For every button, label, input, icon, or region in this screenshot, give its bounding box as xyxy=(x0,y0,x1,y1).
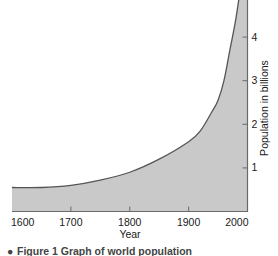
figure-caption: ● Figure 1 Graph of world population xyxy=(7,245,192,256)
x-axis-title: Year xyxy=(119,228,141,240)
y-tick-label: 2 xyxy=(252,118,258,130)
x-tick-label: 2000 xyxy=(225,216,249,228)
x-tick-label: 1700 xyxy=(59,216,83,228)
x-tick-label: 1800 xyxy=(118,216,142,228)
world-population-area-chart: 16001700180019002000 1234 Year Populatio… xyxy=(0,0,278,256)
y-axis-title: Population in billions xyxy=(258,60,270,156)
x-tick-label: 1600 xyxy=(11,216,35,228)
x-tick-label: 1900 xyxy=(177,216,201,228)
y-tick-label: 1 xyxy=(252,161,258,173)
y-tick-label: 4 xyxy=(252,31,258,43)
caption-bullet-icon: ● xyxy=(7,245,13,256)
population-figure: 16001700180019002000 1234 Year Populatio… xyxy=(0,0,278,256)
caption-label: Figure 1 Graph of world population xyxy=(17,245,192,256)
y-tick-label: 3 xyxy=(252,74,258,86)
